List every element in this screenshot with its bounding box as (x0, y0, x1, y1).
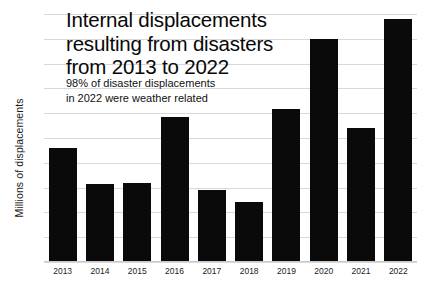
bar-2021 (347, 128, 375, 262)
bar-2015 (123, 183, 151, 262)
chart-subtitle-line-2: in 2022 were weather related (66, 91, 356, 106)
x-axis-tick-label-2019: 2019 (266, 266, 306, 276)
bar-2022 (384, 19, 412, 262)
bar-2019 (272, 109, 300, 262)
x-axis-tick-label-2016: 2016 (155, 266, 195, 276)
x-axis-baseline (44, 261, 417, 262)
chart-title-line-3: from 2013 to 2022 (66, 55, 366, 79)
y-axis-title: Millions of displacements (13, 68, 25, 248)
bar-2013 (49, 148, 77, 262)
gridline (44, 113, 417, 114)
chart-title-line-2: resulting from disasters (66, 32, 366, 56)
bar-2016 (161, 117, 189, 262)
x-axis-tick-label-2014: 2014 (80, 266, 120, 276)
chart-title: Internal displacementsresulting from dis… (66, 8, 366, 79)
x-axis-tick-label-2017: 2017 (192, 266, 232, 276)
bar-2018 (235, 202, 263, 262)
chart-subtitle-line-1: 98% of disaster displacements (66, 76, 356, 91)
bar-2017 (198, 190, 226, 262)
x-axis-tick-label-2015: 2015 (117, 266, 157, 276)
x-axis-tick-label-2022: 2022 (378, 266, 418, 276)
x-axis-tick-label-2021: 2021 (341, 266, 381, 276)
gridline (44, 262, 417, 263)
chart-subtitle: 98% of disaster displacementsin 2022 wer… (66, 76, 356, 105)
x-axis-tick-label-2020: 2020 (304, 266, 344, 276)
bar-chart: Millions of displacements 13151719212325… (0, 0, 421, 290)
x-axis-tick-label-2013: 2013 (43, 266, 83, 276)
bar-2014 (86, 184, 114, 262)
chart-title-line-1: Internal displacements (66, 8, 366, 32)
x-axis-tick-label-2018: 2018 (229, 266, 269, 276)
